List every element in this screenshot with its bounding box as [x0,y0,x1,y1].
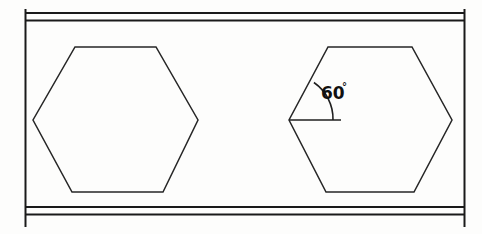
angle-annotation-group: 60 ° [289,81,347,120]
band-group [25,9,465,227]
figure-drawing: 60 ° [0,0,482,234]
degree-symbol-icon: ° [342,81,347,92]
figure-canvas: 60 ° [0,0,482,234]
hexagon-left-group [33,47,198,192]
hexagon-left [33,47,198,192]
